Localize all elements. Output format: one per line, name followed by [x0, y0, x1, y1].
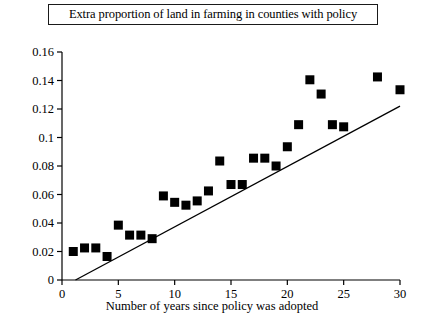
y-tick-label: 0.02	[8, 245, 54, 258]
x-axis-ticks	[62, 280, 400, 285]
x-axis-title: Number of years since policy was adopted	[0, 300, 424, 313]
data-point-marker	[125, 231, 134, 240]
data-point-marker	[396, 85, 405, 94]
trend-line-segment	[76, 106, 400, 280]
data-point-marker	[103, 252, 112, 261]
y-tick-label: 0.1	[8, 131, 54, 144]
y-tick-label: 0.14	[8, 74, 54, 87]
data-point-marker	[272, 162, 281, 171]
y-axis-ticks	[57, 52, 62, 280]
data-point-marker	[91, 243, 100, 252]
x-tick-label: 30	[394, 288, 407, 301]
data-point-marker	[193, 196, 202, 205]
data-point-marker	[69, 247, 78, 256]
data-point-marker	[148, 234, 157, 243]
scatter-plot-svg	[0, 0, 424, 327]
data-point-marker	[181, 201, 190, 210]
data-point-marker	[373, 72, 382, 81]
x-tick-label: 0	[59, 288, 65, 301]
data-point-marker	[238, 180, 247, 189]
chart-figure: Extra proportion of land in farming in c…	[0, 0, 424, 327]
data-point-marker	[283, 142, 292, 151]
data-point-marker	[114, 221, 123, 230]
data-points	[69, 72, 405, 261]
data-point-marker	[339, 122, 348, 131]
y-tick-label: 0.12	[8, 103, 54, 116]
data-point-marker	[227, 180, 236, 189]
data-point-marker	[328, 120, 337, 129]
data-point-marker	[215, 157, 224, 166]
data-point-marker	[294, 120, 303, 129]
y-tick-label: 0.06	[8, 188, 54, 201]
regression-line	[76, 106, 400, 280]
data-point-marker	[136, 231, 145, 240]
data-point-marker	[80, 243, 89, 252]
data-point-marker	[317, 90, 326, 99]
data-point-marker	[260, 154, 269, 163]
y-tick-label: 0.04	[8, 217, 54, 230]
y-tick-label: 0.16	[8, 46, 54, 59]
data-point-marker	[204, 186, 213, 195]
axes	[62, 52, 400, 280]
plot-area	[0, 0, 424, 327]
data-point-marker	[249, 154, 258, 163]
y-tick-label: 0.08	[8, 160, 54, 173]
data-point-marker	[170, 198, 179, 207]
data-point-marker	[159, 191, 168, 200]
y-tick-label: 0	[8, 274, 54, 287]
data-point-marker	[305, 75, 314, 84]
x-tick-label: 25	[337, 288, 350, 301]
